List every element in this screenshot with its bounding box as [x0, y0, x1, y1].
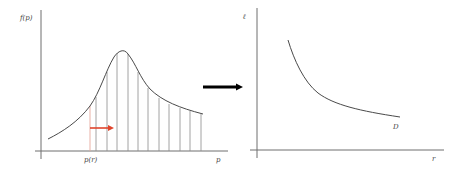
shift-arrow	[90, 125, 114, 131]
p-of-r-marker-label: p(r)	[84, 156, 98, 164]
right-y-axis-label: ℓ	[242, 13, 246, 21]
demand-curve-d	[288, 40, 400, 117]
curve-d-label: D	[392, 123, 399, 131]
density-to-demand-figure: f(p) p p(r)	[0, 0, 466, 170]
left-x-axis-label: p	[216, 156, 221, 164]
left-panel: f(p) p p(r)	[19, 10, 228, 164]
left-y-axis-label: f(p)	[19, 14, 33, 22]
transition-arrow-icon	[203, 84, 243, 91]
right-x-axis-label: r	[432, 155, 436, 163]
right-panel: ℓ r D	[242, 8, 444, 163]
area-strips	[90, 53, 201, 151]
